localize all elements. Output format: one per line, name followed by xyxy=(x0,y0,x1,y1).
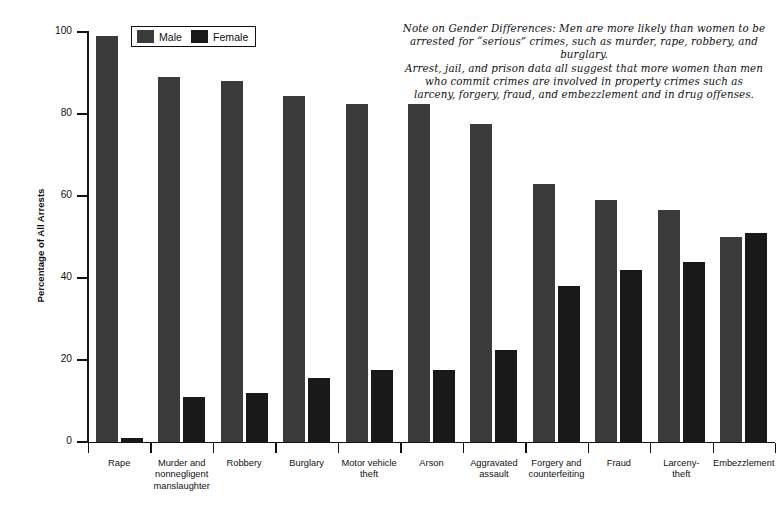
x-tick xyxy=(150,443,151,453)
legend-label: Male xyxy=(159,31,182,43)
bar-female xyxy=(433,370,455,442)
bar-female xyxy=(683,262,705,442)
bar-female xyxy=(558,286,580,442)
y-tick xyxy=(77,113,88,115)
y-tick-label: 0 xyxy=(38,435,72,446)
category-label-line: counterfeiting xyxy=(519,469,593,480)
x-tick xyxy=(88,443,89,453)
x-tick xyxy=(213,443,214,453)
legend-label: Female xyxy=(213,31,248,43)
y-tick xyxy=(77,441,88,443)
x-tick xyxy=(463,443,464,453)
x-tick xyxy=(338,443,339,453)
x-tick xyxy=(775,443,776,453)
bar-male xyxy=(96,36,118,442)
category-label-line: manslaughter xyxy=(144,481,218,492)
legend-swatch-female xyxy=(191,30,208,43)
category-label-line: nonnegligent xyxy=(144,469,218,480)
bar-female xyxy=(246,393,268,442)
bar-male xyxy=(283,96,305,442)
legend-swatch-male xyxy=(137,30,154,43)
y-tick xyxy=(77,359,88,361)
category-label: Embezzlement xyxy=(707,458,780,469)
bar-male xyxy=(346,104,368,442)
y-tick xyxy=(77,277,88,279)
x-tick xyxy=(525,443,526,453)
x-tick xyxy=(713,443,714,453)
bar-male xyxy=(221,81,243,442)
bar-female xyxy=(495,350,517,442)
bar-male xyxy=(158,77,180,442)
legend-item-female: Female xyxy=(191,30,248,43)
y-tick-label: 60 xyxy=(38,189,72,200)
bar-male xyxy=(658,210,680,442)
bar-female xyxy=(745,233,767,442)
x-tick xyxy=(588,443,589,453)
bar-female xyxy=(121,438,143,442)
bar-male xyxy=(470,124,492,442)
bar-male xyxy=(533,184,555,442)
category-label-line: theft xyxy=(644,469,718,480)
category-label-line: Embezzlement xyxy=(707,458,780,469)
legend-item-male: Male xyxy=(137,30,182,43)
plot-area xyxy=(88,32,775,442)
y-tick xyxy=(77,195,88,197)
y-tick xyxy=(77,31,88,33)
bar-male xyxy=(720,237,742,442)
bar-female xyxy=(183,397,205,442)
bar-male xyxy=(408,104,430,442)
y-tick-label: 20 xyxy=(38,353,72,364)
y-tick-label: 80 xyxy=(38,107,72,118)
x-tick xyxy=(650,443,651,453)
y-tick-label: 100 xyxy=(38,25,72,36)
bar-female xyxy=(620,270,642,442)
x-tick xyxy=(400,443,401,453)
chart-legend: MaleFemale xyxy=(131,26,256,47)
y-tick-label: 40 xyxy=(38,271,72,282)
bar-male xyxy=(595,200,617,442)
bar-female xyxy=(371,370,393,442)
category-label-line: theft xyxy=(332,469,406,480)
y-axis-title: Percentage of All Arrests xyxy=(35,146,46,346)
bar-female xyxy=(308,378,330,442)
x-tick xyxy=(275,443,276,453)
